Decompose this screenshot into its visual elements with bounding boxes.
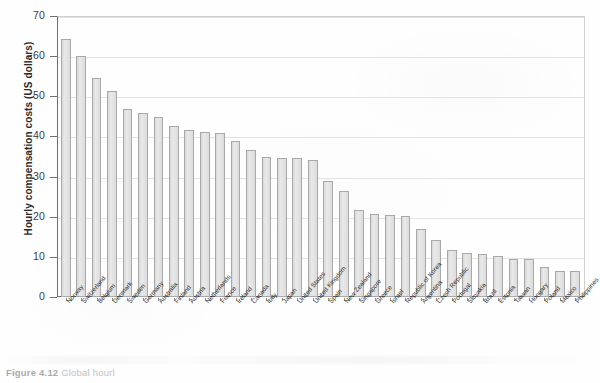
- bar: [92, 78, 102, 297]
- bar: [61, 39, 71, 297]
- bar: [184, 130, 194, 297]
- y-axis-title: Hourly compensation costs (US dollars): [23, 14, 34, 264]
- bar-series: [58, 16, 585, 297]
- bar: [401, 216, 411, 297]
- bar: [262, 157, 272, 298]
- figure-caption: Figure 4.12 Global hourl: [6, 367, 115, 378]
- bar: [277, 158, 287, 297]
- y-axis-tick: [50, 96, 57, 97]
- bar: [169, 126, 179, 297]
- figure-caption-text: Global hourl: [61, 367, 115, 378]
- y-axis-tick: [50, 16, 57, 17]
- bar: [76, 56, 86, 297]
- y-axis-tick: [50, 136, 57, 137]
- figure-number: Figure 4.12: [6, 367, 58, 378]
- bar: [154, 117, 164, 297]
- y-axis-tick: [50, 177, 57, 178]
- bar: [292, 158, 302, 297]
- y-axis-tick: [50, 297, 57, 298]
- bar: [339, 191, 349, 297]
- bar: [107, 91, 117, 297]
- y-axis-tick-label: 0: [0, 290, 45, 302]
- bar: [215, 133, 225, 297]
- y-axis-tick: [50, 257, 57, 258]
- bar: [246, 150, 256, 297]
- y-axis-tick: [50, 217, 57, 218]
- bar: [231, 141, 241, 297]
- y-axis-tick: [50, 56, 57, 57]
- bar: [138, 113, 148, 297]
- bar: [123, 109, 133, 297]
- x-axis-labels: NorwaySwitzerlandBelgiumDenmarkSwedenGer…: [58, 298, 585, 360]
- bar: [200, 132, 210, 297]
